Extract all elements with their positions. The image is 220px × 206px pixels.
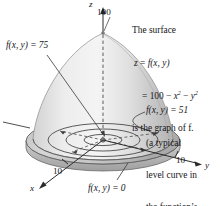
axis-label-x: x	[30, 183, 34, 193]
annotation-level-curve: f(x, y) = 51 (a typical level curve in t…	[146, 84, 197, 206]
axis-tick-y-10: 10	[176, 155, 185, 165]
annotation-level-line4: the function’s	[146, 202, 197, 206]
axis-label-z: z	[89, 0, 93, 9]
surface-equals: =	[138, 58, 148, 68]
annotation-level-line2: (a typical	[146, 138, 197, 149]
annotation-f75: f(x, y) = 75	[6, 40, 48, 51]
annotation-f0: f(x, y) = 0	[88, 183, 126, 194]
axis-label-y: y	[205, 160, 209, 170]
annotation-surface-line2: z = f(x, y)	[134, 58, 198, 69]
annotation-level-line1: f(x, y) = 51	[146, 105, 197, 116]
figure-paraboloid-level-curves: The surface z = f(x, y) = 100 − x2 − y2 …	[0, 0, 220, 206]
annotation-level-line3: level curve in	[146, 170, 197, 181]
annotation-surface-line1: The surface	[132, 25, 198, 36]
axis-tick-z-100: 100	[97, 7, 111, 17]
axis-tick-x-10: 10	[53, 166, 62, 176]
surface-fxy: f(x, y)	[148, 58, 170, 68]
leader-left-pointer	[3, 122, 30, 128]
